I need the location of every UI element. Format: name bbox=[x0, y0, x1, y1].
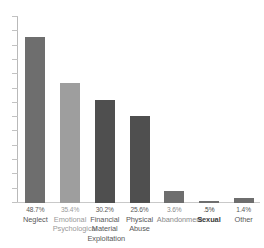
plot-area bbox=[18, 16, 258, 203]
bar[interactable] bbox=[199, 201, 219, 203]
x-axis-labels: 48.7%Neglect35.4%EmotionalPsychological3… bbox=[18, 205, 261, 248]
category-label-line: Material bbox=[87, 224, 122, 234]
category-label: Neglect bbox=[18, 215, 53, 225]
category-label-line: Psychological bbox=[53, 224, 88, 234]
bar[interactable] bbox=[25, 37, 45, 203]
category-label-line: Exploitation bbox=[87, 234, 122, 244]
category-label-line: Neglect bbox=[18, 215, 53, 225]
bar-chart: 48.7%Neglect35.4%EmotionalPsychological3… bbox=[0, 0, 264, 248]
x-axis-label-group: 25.6%PhysicalAbuse bbox=[122, 205, 157, 234]
x-axis-label-group: 30.2%FinancialMaterialExploitation bbox=[87, 205, 122, 243]
category-label-line: Abuse bbox=[122, 224, 157, 234]
category-label-line: Financial bbox=[87, 215, 122, 225]
x-axis-label-group: 1.4%Other bbox=[226, 205, 261, 224]
category-label: PhysicalAbuse bbox=[122, 215, 157, 234]
category-label: Sexual bbox=[192, 215, 227, 225]
bar-slot bbox=[60, 16, 80, 203]
bar[interactable] bbox=[234, 198, 254, 203]
bar-value-label: 1.4% bbox=[226, 205, 261, 215]
bar-slot bbox=[130, 16, 150, 203]
bar-value-label: 30.2% bbox=[87, 205, 122, 215]
bar-slot bbox=[164, 16, 184, 203]
x-axis-label-group: 35.4%EmotionalPsychological bbox=[53, 205, 88, 234]
x-axis-label-group: 3.6%Abandonment bbox=[157, 205, 192, 224]
category-label-line: Other bbox=[226, 215, 261, 225]
x-axis-label-group: .5%Sexual bbox=[192, 205, 227, 224]
bar-value-label: .5% bbox=[192, 205, 227, 215]
category-label: Abandonment bbox=[157, 215, 192, 225]
bar-value-label: 25.6% bbox=[122, 205, 157, 215]
category-label-line: Sexual bbox=[192, 215, 227, 225]
bar-slot bbox=[234, 16, 254, 203]
category-label: EmotionalPsychological bbox=[53, 215, 88, 234]
category-label: Other bbox=[226, 215, 261, 225]
category-label-line: Physical bbox=[122, 215, 157, 225]
category-label-line: Emotional bbox=[53, 215, 88, 225]
bar-value-label: 48.7% bbox=[18, 205, 53, 215]
x-axis-label-group: 48.7%Neglect bbox=[18, 205, 53, 224]
category-label-line: Abandonment bbox=[157, 215, 192, 225]
bar[interactable] bbox=[95, 100, 115, 203]
bar-value-label: 3.6% bbox=[157, 205, 192, 215]
bar[interactable] bbox=[130, 116, 150, 203]
bar-slot bbox=[95, 16, 115, 203]
bar-value-label: 35.4% bbox=[53, 205, 88, 215]
bar-slot bbox=[199, 16, 219, 203]
bar[interactable] bbox=[60, 83, 80, 203]
category-label: FinancialMaterialExploitation bbox=[87, 215, 122, 244]
bar-slot bbox=[25, 16, 45, 203]
bar[interactable] bbox=[164, 191, 184, 203]
